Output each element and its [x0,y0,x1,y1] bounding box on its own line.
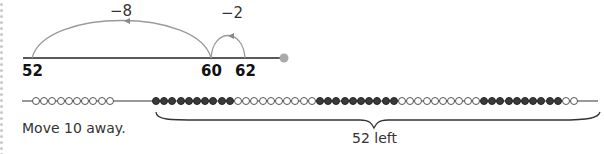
bead[interactable] [275,97,283,105]
bead[interactable] [73,97,81,105]
bead[interactable] [431,97,439,105]
bead[interactable] [439,97,447,105]
bead[interactable] [300,97,308,105]
instruction-text: Move 10 away. [22,120,126,136]
bead[interactable] [521,97,529,105]
bead[interactable] [234,97,242,105]
bead[interactable] [218,97,226,105]
bead[interactable] [562,97,570,105]
jump-arc-minus-2 [211,36,245,59]
bead[interactable] [65,97,73,105]
tick-label-52: 52 [22,62,43,80]
bead[interactable] [185,97,193,105]
bead[interactable] [505,97,513,105]
bead[interactable] [259,97,267,105]
bead[interactable] [341,97,349,105]
bead[interactable] [98,97,106,105]
bead[interactable] [349,97,357,105]
bead[interactable] [390,97,398,105]
bead[interactable] [267,97,275,105]
bead[interactable] [177,97,185,105]
bead[interactable] [398,97,406,105]
jump-label-minus-2: −2 [221,4,243,22]
jump-label-minus-8: −8 [110,2,132,20]
number-line-end-marker [280,54,289,63]
arrow-left-icon [228,33,234,39]
bead[interactable] [423,97,431,105]
tick-label-62: 62 [235,62,256,80]
brace-label: 52 left [352,130,397,146]
bead[interactable] [546,97,554,105]
bead[interactable] [226,97,234,105]
bead[interactable] [106,97,114,105]
curly-brace [156,112,600,128]
bead[interactable] [308,97,316,105]
bead[interactable] [472,97,480,105]
bead[interactable] [193,97,201,105]
bead[interactable] [316,97,324,105]
bead[interactable] [152,97,160,105]
bead[interactable] [357,97,365,105]
bead[interactable] [57,97,65,105]
bead[interactable] [464,97,472,105]
jump-arc-minus-8 [32,21,211,59]
bead[interactable] [554,97,562,105]
bead[interactable] [513,97,521,105]
bead[interactable] [480,97,488,105]
bead[interactable] [32,97,40,105]
tick-label-60: 60 [201,62,222,80]
bead[interactable] [382,97,390,105]
